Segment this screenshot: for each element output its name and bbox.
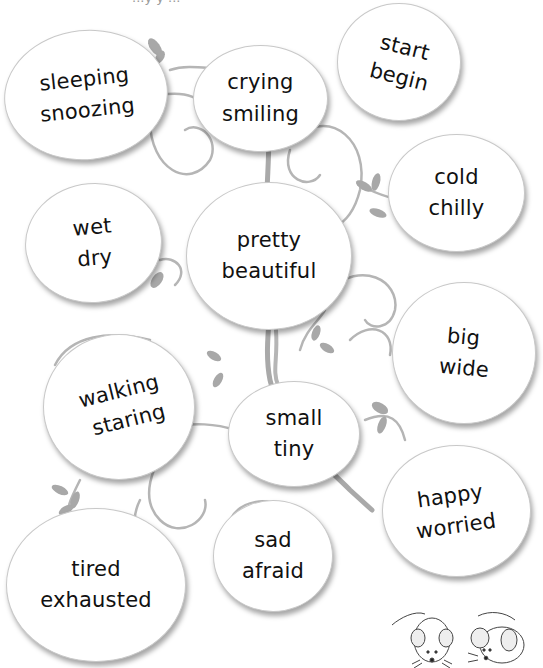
word-2: beautiful bbox=[222, 256, 317, 288]
bubble-happy: happy worried bbox=[382, 445, 531, 577]
synonym-tree-worksheet: ...y y ... bbox=[0, 0, 543, 668]
bubble-pretty: pretty beautiful bbox=[186, 182, 352, 330]
word-2: wide bbox=[438, 351, 491, 387]
word-2: tiny bbox=[274, 434, 315, 466]
word-1: small bbox=[266, 403, 323, 435]
bubble-crying: crying smiling bbox=[193, 45, 328, 152]
word-1: crying bbox=[227, 67, 293, 99]
bubble-sad: sad afraid bbox=[213, 500, 333, 612]
word-2: exhausted bbox=[40, 585, 152, 617]
word-1: wet bbox=[71, 210, 113, 245]
word-2: smiling bbox=[222, 99, 299, 131]
word-2: chilly bbox=[429, 193, 485, 225]
word-2: dry bbox=[76, 241, 114, 275]
mouse-front-icon bbox=[392, 613, 453, 668]
word-2: afraid bbox=[242, 556, 304, 588]
bubble-walking: walking staring bbox=[43, 334, 195, 480]
bubble-small: small tiny bbox=[228, 381, 360, 487]
word-1: pretty bbox=[237, 225, 302, 257]
bubble-big: big wide bbox=[392, 282, 536, 424]
word-1: cold bbox=[434, 162, 478, 194]
word-1: big bbox=[446, 320, 482, 354]
bubble-cold: cold chilly bbox=[388, 134, 525, 252]
word-1: tired bbox=[71, 554, 121, 586]
word-1: sad bbox=[254, 525, 292, 557]
mouse-side-icon bbox=[468, 613, 524, 663]
bubble-start: start begin bbox=[337, 3, 461, 121]
bubble-tired: tired exhausted bbox=[6, 508, 186, 662]
